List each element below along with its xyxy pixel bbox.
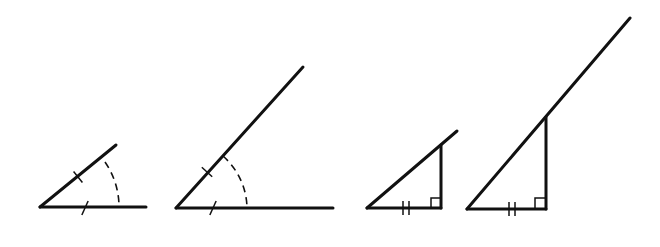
angle-ray — [176, 67, 303, 208]
dashed-arc — [223, 156, 247, 208]
hypotenuse-ray — [467, 18, 630, 209]
right-angle-marker — [535, 198, 546, 209]
figure-angle-large — [176, 67, 333, 215]
figure-angle-small — [40, 145, 146, 215]
hypotenuse-ray — [367, 131, 457, 208]
dashed-arc — [105, 162, 119, 207]
figure-right-triangle-small — [367, 131, 457, 215]
geometry-diagram — [0, 0, 660, 247]
figure-right-triangle-large — [467, 18, 630, 216]
